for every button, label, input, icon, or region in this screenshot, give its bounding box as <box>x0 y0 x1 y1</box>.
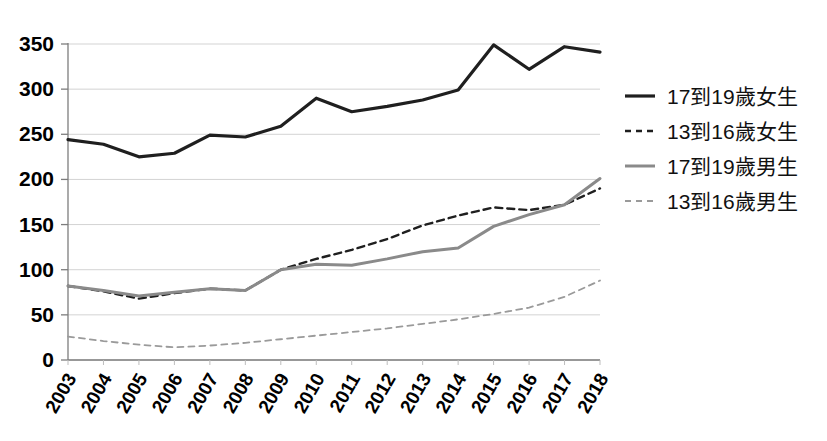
line-chart-figure: 050100150200250300350 200320042005200620… <box>0 0 827 441</box>
chart-canvas: 050100150200250300350 200320042005200620… <box>0 0 827 441</box>
y-tick-label: 0 <box>42 348 54 371</box>
legend-label-2: 17到19歲男生 <box>667 155 798 178</box>
y-tick-label: 100 <box>19 258 54 281</box>
y-tick-label: 50 <box>31 303 54 326</box>
legend-label-0: 17到19歲女生 <box>667 85 798 108</box>
y-tick-label: 200 <box>19 167 54 190</box>
y-tick-label: 300 <box>19 77 54 100</box>
y-tick-label: 150 <box>19 213 54 236</box>
legend-label-3: 13到16歲男生 <box>667 190 798 213</box>
legend-label-1: 13到16歲女生 <box>667 120 798 143</box>
y-tick-label: 350 <box>19 32 54 55</box>
y-tick-label: 250 <box>19 122 54 145</box>
